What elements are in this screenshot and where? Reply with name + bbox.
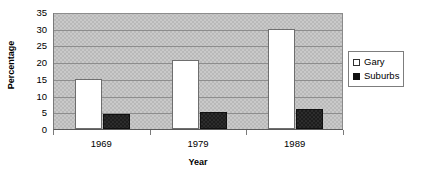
x-axis-tick [150, 130, 151, 135]
x-axis-tick [343, 130, 344, 135]
legend-item-label: Suburbs [364, 71, 399, 81]
bar-suburbs-1979 [200, 112, 227, 129]
gridline [54, 46, 343, 47]
legend: GarySuburbs [348, 51, 404, 87]
legend-item-label: Gary [364, 57, 385, 67]
x-axis-tick-label: 1989 [284, 138, 305, 149]
bar-suburbs-1989 [296, 109, 323, 129]
gridline [54, 63, 343, 64]
y-axis-title: Percentage [2, 0, 20, 130]
bar-suburbs-1969 [103, 114, 130, 129]
gridline [54, 13, 343, 14]
bar-gary-1969 [75, 79, 102, 129]
filled-square-icon [353, 73, 360, 80]
y-axis-tick-label: 0 [42, 125, 47, 135]
legend-item-gary[interactable]: Gary [353, 55, 399, 69]
bar-chart: Percentage 05101520253035 Year GarySubur… [0, 0, 425, 176]
y-axis-tick-label: 5 [42, 109, 47, 119]
x-axis-tick [246, 130, 247, 135]
y-axis-tick-label: 25 [36, 42, 47, 52]
y-axis-tick-label: 20 [36, 58, 47, 68]
gridline [54, 30, 343, 31]
hollow-square-icon [353, 59, 360, 66]
y-axis-tick-label: 15 [36, 75, 47, 85]
bar-gary-1979 [172, 60, 199, 129]
bar-gary-1989 [268, 29, 295, 129]
legend-item-suburbs[interactable]: Suburbs [353, 69, 399, 83]
y-axis-tick-labels: 05101520253035 [20, 13, 50, 130]
x-axis-tick-label: 1979 [187, 138, 208, 149]
y-axis-tick-label: 35 [36, 8, 47, 18]
y-axis-tick-label: 30 [36, 25, 47, 35]
x-axis-title: Year [53, 157, 343, 167]
y-axis-tick-label: 10 [36, 92, 47, 102]
y-axis-title-label: Percentage [6, 41, 16, 90]
x-axis-tick [53, 130, 54, 135]
plot-area [53, 13, 343, 130]
x-axis-tick-label: 1969 [91, 138, 112, 149]
